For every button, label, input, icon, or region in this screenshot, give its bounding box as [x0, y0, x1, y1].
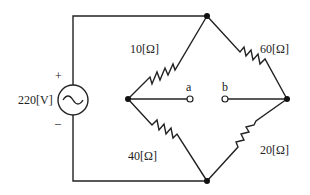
- resistor-60-label: 60[Ω]: [260, 42, 289, 56]
- plus-sign: +: [55, 69, 62, 83]
- source-voltage-label: 220[V]: [18, 93, 53, 107]
- node-bottom: [204, 178, 210, 184]
- resistor-40-ohm: [128, 99, 207, 181]
- resistor-10-label: 10[Ω]: [130, 42, 159, 56]
- minus-sign: –: [54, 116, 62, 130]
- terminal-a-label: a: [186, 80, 192, 94]
- terminal-a: [187, 96, 193, 102]
- terminal-b: [222, 96, 228, 102]
- wheatstone-bridge-circuit: + – 220[V] 10[Ω] 60[Ω] 40[Ω] 20[Ω] a b: [0, 0, 310, 195]
- resistor-10-ohm: [128, 16, 207, 99]
- node-right: [284, 96, 290, 102]
- node-left: [125, 96, 131, 102]
- ac-voltage-source: [58, 85, 88, 115]
- resistor-20-label: 20[Ω]: [260, 143, 289, 157]
- resistor-40-label: 40[Ω]: [128, 149, 157, 163]
- terminal-b-label: b: [222, 80, 228, 94]
- resistor-60-ohm: [207, 16, 287, 99]
- node-top: [204, 13, 210, 19]
- resistor-20-ohm: [207, 99, 287, 181]
